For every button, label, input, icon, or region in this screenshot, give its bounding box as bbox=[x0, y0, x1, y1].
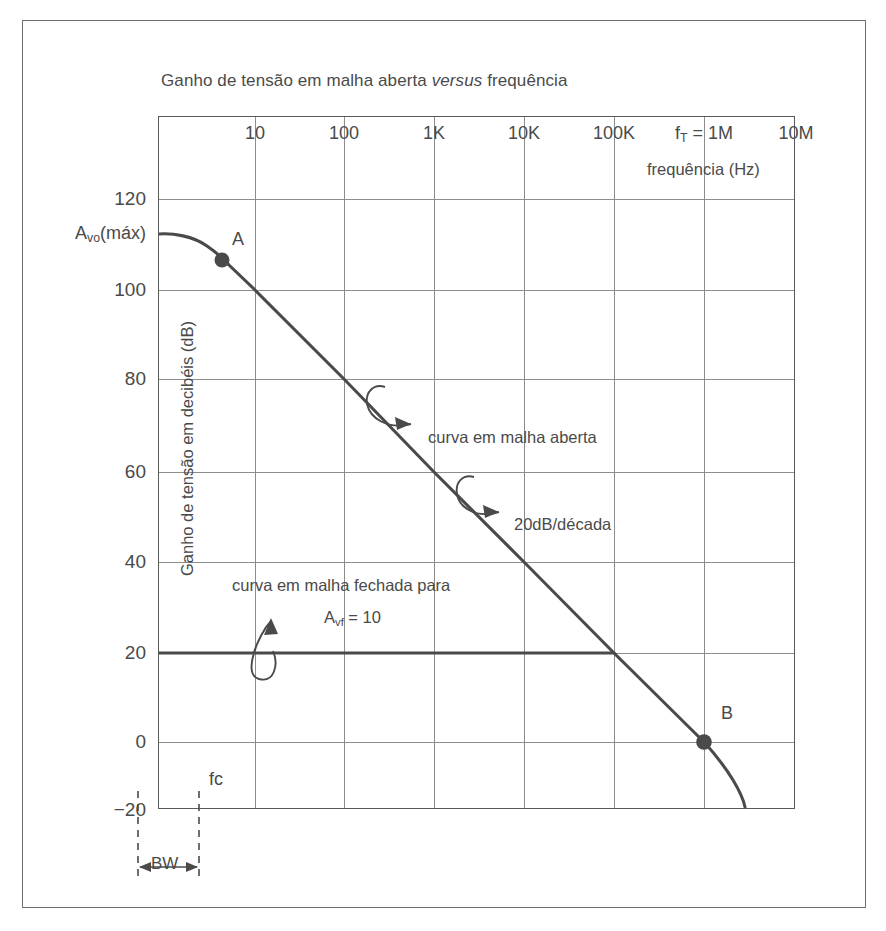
figure-page: Ganho de tensão em malha aberta versus f… bbox=[0, 0, 886, 931]
xtick-label-10m: 10M bbox=[778, 123, 813, 144]
gridline-y-100 bbox=[159, 290, 794, 291]
gridline-x-100 bbox=[344, 117, 345, 808]
gridline-x-10 bbox=[255, 117, 256, 808]
arrowhead-closed-loop bbox=[264, 618, 278, 635]
ytick-label-100: 100 bbox=[114, 279, 146, 301]
avo-max-tail: (máx) bbox=[100, 223, 146, 243]
avo-max-label: Avo(máx) bbox=[75, 223, 146, 245]
annotation-closed-loop-line1: curva em malha fechada para bbox=[232, 576, 450, 595]
figure-frame: Ganho de tensão em malha aberta versus f… bbox=[22, 20, 866, 908]
fc-label: fc bbox=[209, 769, 223, 790]
xaxis-title: frequência (Hz) bbox=[647, 160, 760, 179]
bw-arrow-right bbox=[186, 862, 198, 872]
figure-title-italic: versus bbox=[432, 71, 483, 90]
arrowhead-decade bbox=[483, 505, 499, 518]
ft-subscript: T bbox=[680, 131, 687, 145]
yaxis-title: Ganho de tensão em decibéis (dB) bbox=[178, 189, 197, 709]
plot-area: 120 100 80 60 40 20 0 −20 Avo(máx) A B f… bbox=[158, 116, 795, 809]
figure-title-text-2: frequência bbox=[482, 71, 567, 90]
gridline-y-0 bbox=[159, 742, 794, 743]
figure-title: Ganho de tensão em malha aberta versus f… bbox=[161, 71, 568, 91]
point-a-label: A bbox=[232, 229, 244, 250]
xtick-label-1k: 1K bbox=[423, 123, 445, 144]
gridline-y-60 bbox=[159, 472, 794, 473]
xtick-label-10: 10 bbox=[245, 123, 265, 144]
avf-subscript: vf bbox=[335, 616, 344, 628]
xtick-label-1m: fT = 1M bbox=[675, 123, 733, 145]
ft-tail: = 1M bbox=[687, 123, 733, 143]
xtick-label-10k: 10K bbox=[508, 123, 540, 144]
leader-decade bbox=[457, 476, 499, 514]
gridline-y-40 bbox=[159, 562, 794, 563]
ytick-label-60: 60 bbox=[125, 461, 146, 483]
leader-open-loop bbox=[367, 386, 411, 426]
avf-tail: = 10 bbox=[344, 608, 381, 626]
xtick-label-100k: 100K bbox=[593, 123, 635, 144]
gridline-y-120 bbox=[159, 199, 794, 200]
point-b-label: B bbox=[721, 703, 733, 724]
gridline-y-80 bbox=[159, 379, 794, 380]
gridline-x-1m bbox=[704, 117, 705, 808]
gridline-x-10k bbox=[524, 117, 525, 808]
gridline-x-1k bbox=[434, 117, 435, 808]
figure-title-text-1: Ganho de tensão em malha aberta bbox=[161, 71, 432, 90]
bw-label: BW bbox=[151, 854, 178, 874]
gridline-y-20 bbox=[159, 653, 794, 654]
ytick-label-0: 0 bbox=[135, 731, 146, 753]
annotation-open-loop: curva em malha aberta bbox=[428, 428, 597, 447]
ytick-label-minus20: −20 bbox=[114, 799, 146, 821]
ytick-label-20: 20 bbox=[125, 642, 146, 664]
avf-base: A bbox=[324, 608, 335, 626]
ytick-label-120: 120 bbox=[114, 188, 146, 210]
bw-arrow-left bbox=[139, 862, 151, 872]
ytick-label-80: 80 bbox=[125, 368, 146, 390]
gridline-x-100k bbox=[614, 117, 615, 808]
annotation-decade: 20dB/década bbox=[514, 515, 611, 534]
avo-max-subscript: vo bbox=[87, 231, 100, 245]
xtick-label-100: 100 bbox=[329, 123, 359, 144]
marker-point-a bbox=[215, 253, 230, 268]
avo-max-base: A bbox=[75, 223, 87, 243]
open-loop-curve bbox=[159, 234, 745, 807]
ytick-label-40: 40 bbox=[125, 551, 146, 573]
arrowhead-open-loop bbox=[395, 417, 411, 430]
annotation-closed-loop-gain: Avf = 10 bbox=[324, 608, 381, 628]
